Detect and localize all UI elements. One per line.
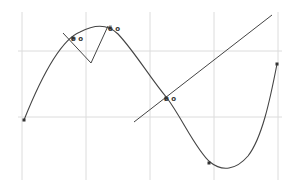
point-marker [208,162,211,165]
grid [18,12,282,180]
point-label: ø o [71,35,83,43]
tangent-lines [63,15,272,122]
function-plot: ø oö oø o [0,0,293,187]
point-marker [276,63,279,66]
point-marker [23,119,26,122]
point-label: ø o [164,95,176,103]
diagram-canvas: ø oö oø o [0,0,293,187]
secant-line [134,15,272,122]
point-label: ö o [108,25,120,33]
